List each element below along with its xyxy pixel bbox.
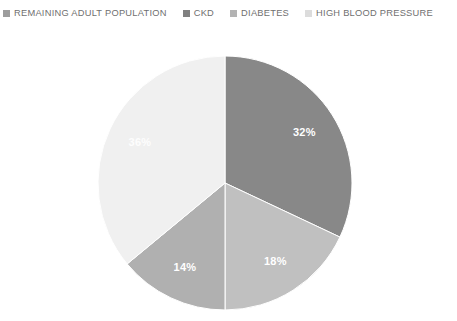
pie-slice-label-high-blood-pressure: 14%	[174, 261, 197, 273]
square-swatch-icon	[183, 10, 190, 17]
pie-chart-figure: REMAINING ADULT POPULATION CKD DIABETES …	[0, 0, 457, 321]
square-swatch-icon	[305, 10, 312, 17]
legend-item-remaining-adult-population[interactable]: REMAINING ADULT POPULATION	[3, 8, 167, 19]
legend-item-high-blood-pressure[interactable]: HIGH BLOOD PRESSURE	[305, 8, 433, 19]
legend-item-label: HIGH BLOOD PRESSURE	[316, 8, 433, 19]
square-swatch-icon	[3, 10, 10, 17]
chart-legend: REMAINING ADULT POPULATION CKD DIABETES …	[0, 5, 457, 21]
pie-plot-area: 32% 18% 14% 36%	[97, 55, 353, 311]
legend-item-label: REMAINING ADULT POPULATION	[14, 8, 167, 19]
legend-item-diabetes[interactable]: DIABETES	[230, 8, 289, 19]
pie-slice-label-remaining-adult-population: 36%	[128, 136, 151, 148]
pie-slice-label-diabetes: 18%	[264, 255, 287, 267]
legend-item-label: DIABETES	[241, 8, 289, 19]
pie-svg: 32% 18% 14% 36%	[97, 55, 353, 311]
legend-item-label: CKD	[194, 8, 214, 19]
legend-item-ckd[interactable]: CKD	[183, 8, 214, 19]
square-swatch-icon	[230, 10, 237, 17]
pie-slice-label-ckd: 32%	[293, 126, 316, 138]
